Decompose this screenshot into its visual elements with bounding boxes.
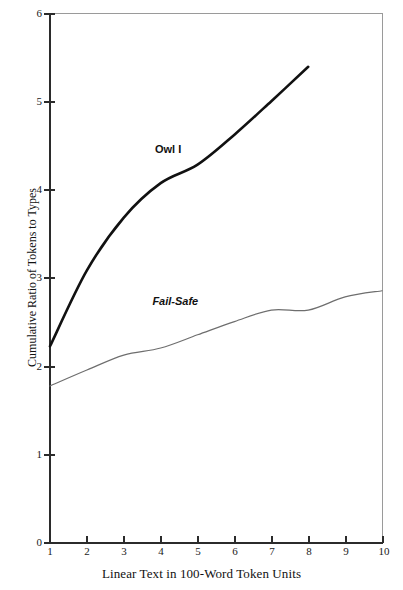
y-axis-title: Cumulative Ratio of Tokens to Types [25, 158, 40, 398]
series-label-owl-i: Owl I [155, 143, 181, 155]
chart-figure: 6 5 4 3 2 1 0 1 2 3 4 5 6 7 8 9 10 Owl I… [0, 0, 403, 590]
x-axis-title: Linear Text in 100-Word Token Units [0, 566, 403, 582]
series-label-fail-safe: Fail-Safe [152, 295, 198, 307]
plot-area [0, 0, 403, 590]
series-line-fail-safe [50, 291, 382, 386]
